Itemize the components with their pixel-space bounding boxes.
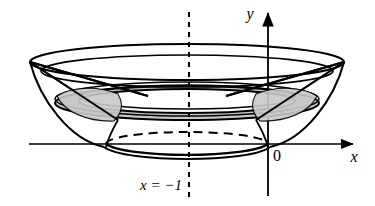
outer-bowl-bottom-front-arc [104,147,270,159]
volume-of-revolution-figure: y x 0 x = −1 [0,0,375,206]
base-ellipse-visible-front [106,144,268,155]
x-axis-label: x [349,148,357,165]
figure-canvas: y x 0 x = −1 [0,0,375,206]
inner-funnel-left-wall [106,120,118,147]
inner-funnel-right-wall [256,120,268,147]
y-axis-label: y [244,5,254,23]
base-ellipse-hidden-back [106,132,268,144]
origin-label: 0 [273,147,281,164]
axis-of-revolution-label: x = −1 [139,177,182,193]
